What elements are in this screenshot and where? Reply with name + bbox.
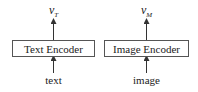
text-embedding-label: vT: [40, 3, 67, 19]
image-input-label: image: [126, 74, 167, 86]
image-encoder-label: Image Encoder: [113, 43, 180, 55]
text-encoder-box: Text Encoder: [12, 40, 95, 57]
image-encoder-box: Image Encoder: [104, 40, 189, 57]
image-embedding-label: vM: [133, 3, 160, 19]
text-embedding-subscript: T: [54, 11, 58, 19]
text-input-label: text: [33, 74, 74, 86]
text-encoder-label: Text Encoder: [24, 43, 83, 55]
image-embedding-subscript: M: [146, 11, 152, 19]
